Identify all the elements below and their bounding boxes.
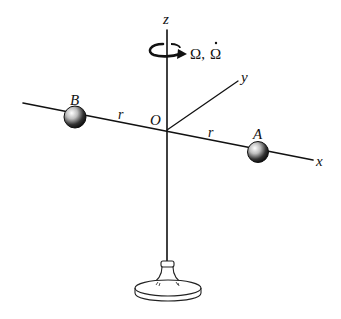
rotation-arrow-icon (150, 44, 187, 59)
stand-base (135, 261, 201, 301)
x-axis-label: x (315, 153, 323, 169)
z-axis-label: z (162, 11, 169, 27)
y-axis (167, 81, 238, 130)
mass-b-label: B (70, 92, 79, 108)
origin-label: O (150, 112, 161, 128)
diagram-canvas: z y x O B A r r Ω, Ω (0, 0, 341, 319)
mass-a (248, 142, 269, 163)
y-axis-label: y (239, 69, 248, 85)
angular-velocity-label: Ω, (190, 46, 205, 62)
mass-a-label: A (252, 126, 263, 142)
distance-label-left: r (118, 107, 124, 122)
time-derivative-dot (215, 42, 217, 44)
angular-acceleration-label: Ω (210, 46, 221, 62)
distance-label-right: r (208, 125, 214, 140)
rotating-dumbbell-diagram: z y x O B A r r Ω, Ω (0, 0, 341, 319)
mass-b (64, 106, 86, 128)
